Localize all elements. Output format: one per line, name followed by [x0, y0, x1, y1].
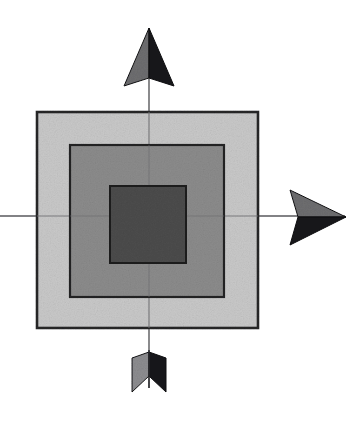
inner-square	[110, 186, 186, 263]
inner-square-rect	[110, 186, 186, 263]
figure-canvas	[0, 0, 361, 426]
nested-squares-axes-figure	[0, 0, 361, 426]
arrow-fletching	[132, 350, 166, 392]
